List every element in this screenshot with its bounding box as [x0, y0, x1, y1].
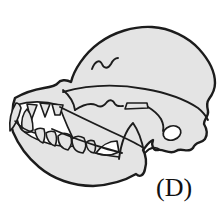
figure-panel: (D) [0, 0, 222, 215]
figure-label: (D) [156, 174, 208, 203]
bone-ledge [125, 103, 148, 109]
